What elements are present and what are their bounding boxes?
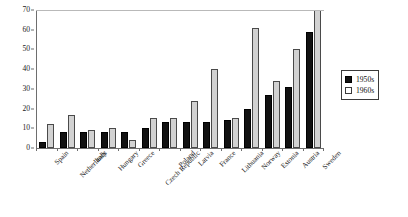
plot-area (36, 10, 324, 149)
y-axis-tick-mark (31, 128, 34, 129)
bar-1950s (244, 109, 251, 148)
x-axis-category-label: Greece (137, 150, 156, 169)
legend-swatch-1950s-icon (345, 76, 352, 83)
bar-1950s (101, 132, 108, 148)
legend-item-1960s: 1960s (345, 85, 374, 96)
bar-1960s (211, 69, 218, 148)
bar-1950s (39, 142, 46, 148)
bar-1950s (121, 132, 128, 148)
y-axis-tick-mark (31, 148, 34, 149)
bar-1960s (252, 28, 259, 148)
bar-1960s (314, 10, 321, 148)
y-axis-tick-mark (31, 108, 34, 109)
bar-1960s (129, 140, 136, 148)
gridline-top (36, 10, 324, 11)
legend-label-1960s: 1960s (356, 87, 374, 95)
bar-group (181, 10, 202, 148)
y-axis-tick-label: 0 (26, 144, 30, 152)
bar-1950s (203, 122, 210, 148)
bar-1960s (47, 124, 54, 148)
bar-1950s (306, 32, 313, 148)
bar-group (58, 10, 79, 148)
legend: 1950s 1960s (341, 70, 379, 100)
y-axis-tick-label: 20 (22, 105, 30, 113)
bar-1960s (109, 128, 116, 148)
bar-group (78, 10, 99, 148)
bar-1950s (162, 122, 169, 148)
bar-group (304, 10, 325, 148)
bar-1960s (293, 49, 300, 148)
y-axis-tick-label: 10 (22, 124, 30, 132)
bar-group (222, 10, 243, 148)
bar-1950s (265, 95, 272, 148)
y-axis-tick-label: 60 (22, 26, 30, 34)
bar-group (99, 10, 120, 148)
bar-group (37, 10, 58, 148)
y-axis-tick-label: 70 (22, 6, 30, 14)
bar-group (283, 10, 304, 148)
bar-group (140, 10, 161, 148)
bar-1960s (191, 101, 198, 148)
bar-1950s (80, 132, 87, 148)
legend-item-1950s: 1950s (345, 74, 374, 85)
y-axis-tick-mark (31, 10, 34, 11)
bar-1960s (88, 130, 95, 148)
x-axis-category-label: Estonia (281, 150, 301, 170)
x-axis-category-label: Sweden (322, 150, 343, 171)
bar-group (242, 10, 263, 148)
y-axis-tick-label: 40 (22, 65, 30, 73)
x-axis-category-label: France (218, 150, 237, 169)
bar-1960s (273, 81, 280, 148)
bar-1950s (60, 132, 67, 148)
bar-group (201, 10, 222, 148)
bar-group (160, 10, 181, 148)
bars-layer (37, 10, 324, 148)
bar-1950s (183, 122, 190, 148)
bar-chart: 010203040506070 SpainNetherlandsItalyHun… (0, 0, 408, 217)
x-axis-category-label: Spain (53, 150, 70, 167)
bar-1950s (142, 128, 149, 148)
bar-group (119, 10, 140, 148)
bar-1950s (224, 120, 231, 148)
legend-swatch-1960s-icon (345, 87, 352, 94)
x-axis-category-labels: SpainNetherlandsItalyHungaryGreeceCzech … (36, 150, 336, 212)
y-axis-tick-label: 50 (22, 46, 30, 54)
bar-1960s (150, 118, 157, 148)
y-axis-tick-mark (31, 29, 34, 30)
legend-label-1950s: 1950s (356, 76, 374, 84)
y-axis-tick-label: 30 (22, 85, 30, 93)
bar-1960s (68, 115, 75, 149)
bar-group (263, 10, 284, 148)
bar-1960s (170, 118, 177, 148)
y-axis: 010203040506070 (0, 10, 34, 149)
y-axis-tick-mark (31, 88, 34, 89)
bar-1960s (232, 118, 239, 148)
x-axis-category-label: Austria (301, 150, 321, 170)
y-axis-tick-mark (31, 69, 34, 70)
bar-1950s (285, 87, 292, 148)
y-axis-tick-mark (31, 49, 34, 50)
